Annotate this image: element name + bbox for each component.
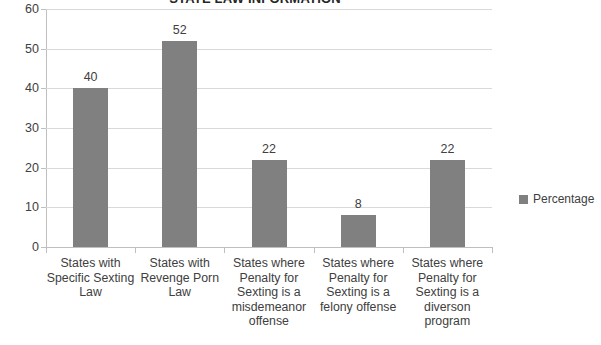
gridline-40 (46, 88, 492, 89)
x-category-label-line: diverson (403, 300, 492, 315)
y-tick-label-50: 50 (9, 42, 39, 56)
bar-value-label-0: 40 (61, 70, 121, 84)
legend-swatch-percentage (519, 195, 528, 204)
bar-0[interactable] (73, 88, 108, 247)
bar-3[interactable] (341, 215, 376, 247)
gridline-60 (46, 9, 492, 10)
bar-value-label-2: 22 (239, 142, 299, 156)
legend-label-percentage: Percentage (533, 192, 594, 206)
bar-value-label-3: 8 (328, 197, 388, 211)
gridline-30 (46, 128, 492, 129)
gridline-50 (46, 49, 492, 50)
x-category-label-line: Law (135, 285, 224, 300)
x-category-label-2: States wherePenalty forSexting is amisde… (224, 256, 313, 329)
x-category-label-line: program (403, 314, 492, 329)
x-axis-line (46, 247, 492, 248)
x-category-label-line: Penalty for (403, 271, 492, 286)
chart-legend: Percentage (519, 192, 594, 206)
y-tick-mark-20 (41, 168, 46, 169)
x-category-label-4: States wherePenalty forSexting is adiver… (403, 256, 492, 329)
x-category-label-line: Specific Sexting (46, 271, 135, 286)
x-axis-separator-2 (224, 247, 225, 253)
x-axis-separator-0 (46, 247, 47, 253)
x-category-label-line: Sexting is a (403, 285, 492, 300)
y-tick-label-10: 10 (9, 200, 39, 214)
x-category-label-0: States withSpecific SextingLaw (46, 256, 135, 300)
x-axis-separator-3 (314, 247, 315, 253)
x-category-label-line: Sexting is a (314, 285, 403, 300)
x-category-label-line: misdemeanor (224, 300, 313, 315)
bar-value-label-1: 52 (150, 23, 210, 37)
bar-4[interactable] (430, 160, 465, 247)
x-category-label-line: States with (46, 256, 135, 271)
x-axis-separator-1 (135, 247, 136, 253)
x-category-label-line: States where (403, 256, 492, 271)
x-category-label-line: Law (46, 285, 135, 300)
y-tick-label-20: 20 (9, 161, 39, 175)
y-tick-mark-50 (41, 49, 46, 50)
plot-area: 405222822 (46, 9, 492, 247)
bar-1[interactable] (162, 41, 197, 247)
x-category-label-3: States wherePenalty forSexting is afelon… (314, 256, 403, 314)
x-axis-separator-5 (492, 247, 493, 253)
y-tick-label-40: 40 (9, 81, 39, 95)
x-category-label-line: Penalty for (224, 271, 313, 286)
x-category-label-line: Sexting is a (224, 285, 313, 300)
x-category-label-line: Penalty for (314, 271, 403, 286)
x-category-label-1: States withRevenge PornLaw (135, 256, 224, 300)
chart-title: STATE LAW INFORMATION (0, 0, 510, 6)
bar-value-label-4: 22 (417, 142, 477, 156)
y-tick-label-30: 30 (9, 121, 39, 135)
x-category-label-line: States where (314, 256, 403, 271)
x-category-label-line: felony offense (314, 300, 403, 315)
bar-2[interactable] (252, 160, 287, 247)
y-tick-label-60: 60 (9, 2, 39, 16)
y-tick-mark-30 (41, 128, 46, 129)
x-category-label-line: offense (224, 314, 313, 329)
x-category-label-line: States with (135, 256, 224, 271)
y-tick-label-0: 0 (9, 240, 39, 254)
x-axis-separator-4 (403, 247, 404, 253)
y-tick-mark-60 (41, 9, 46, 10)
y-axis-tick-labels: 6050403020100 (8, 9, 39, 247)
y-tick-mark-40 (41, 88, 46, 89)
x-category-label-line: States where (224, 256, 313, 271)
x-category-label-line: Revenge Porn (135, 271, 224, 286)
y-tick-mark-10 (41, 207, 46, 208)
